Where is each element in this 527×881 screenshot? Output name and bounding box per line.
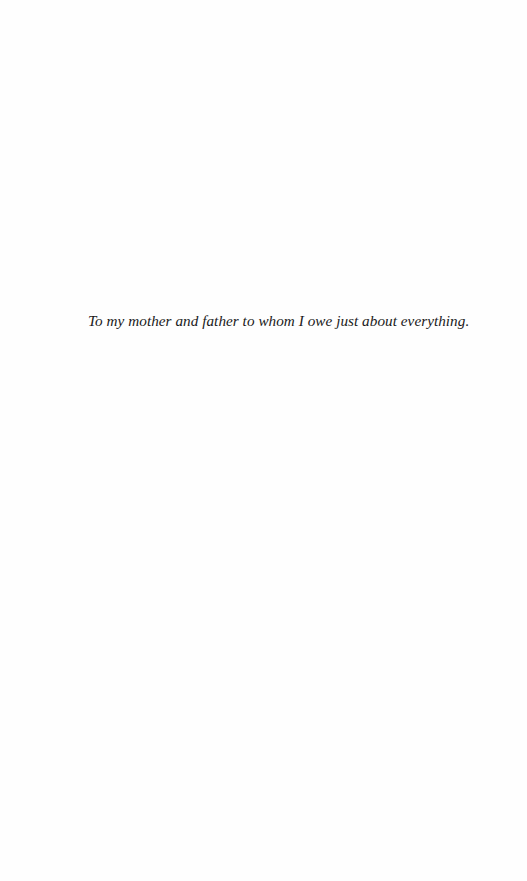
- dedication-page: To my mother and father to whom I owe ju…: [0, 0, 527, 881]
- dedication-text: To my mother and father to whom I owe ju…: [88, 312, 428, 330]
